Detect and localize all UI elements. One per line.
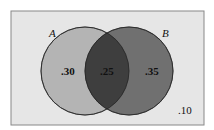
a-only-value: .30 [61,65,75,77]
set-a-label: A [48,27,56,39]
intersection-value: .25 [100,65,114,77]
venn-diagram: A B .30 .25 .35 .10 [0,0,214,130]
b-only-value: .35 [145,65,159,77]
outside-value: .10 [178,104,192,116]
set-b-label: B [162,27,169,39]
